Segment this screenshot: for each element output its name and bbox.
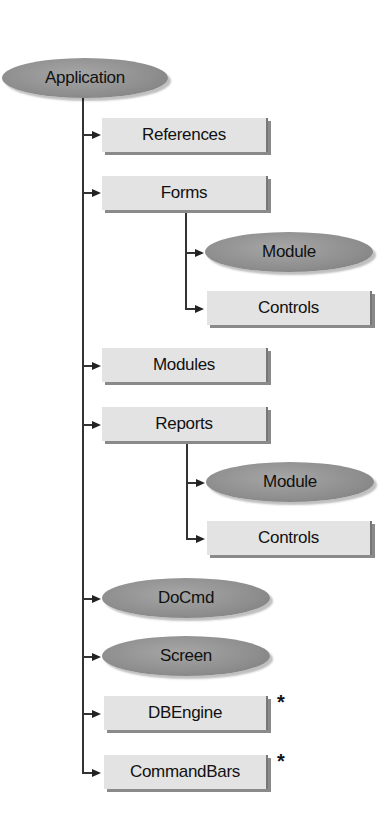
node-application: Application [2,58,168,98]
node-screen: Screen [102,636,270,676]
arrow-icon [92,421,101,429]
node-reports-module: Module [206,462,374,502]
node-forms: Forms [102,176,268,210]
arrow-icon [92,769,101,777]
arrow-icon [92,710,101,718]
arrow-icon [196,535,205,543]
node-reports-controls: Controls [207,521,372,555]
node-reports: Reports [102,407,268,441]
arrow-icon [196,479,205,487]
asterisk-marker-dbengine: * [277,691,285,714]
node-docmd: DoCmd [102,578,270,618]
arrow-icon [92,595,101,603]
arrow-icon [92,189,101,197]
node-forms-module: Module [205,232,373,272]
reports-branch-line [186,443,188,539]
forms-branch-line [185,210,187,309]
asterisk-marker-commandbars: * [277,750,285,773]
arrow-icon [92,131,101,139]
arrow-icon [195,305,204,313]
arrow-icon [92,653,101,661]
node-references: References [102,118,268,152]
node-forms-controls: Controls [207,291,372,325]
arrow-icon [92,362,101,370]
node-dbengine: DBEngine [104,696,268,730]
node-commandbars: CommandBars [104,755,268,789]
arrow-icon [195,249,204,257]
node-modules: Modules [102,348,268,382]
main-trunk-line [82,96,84,773]
